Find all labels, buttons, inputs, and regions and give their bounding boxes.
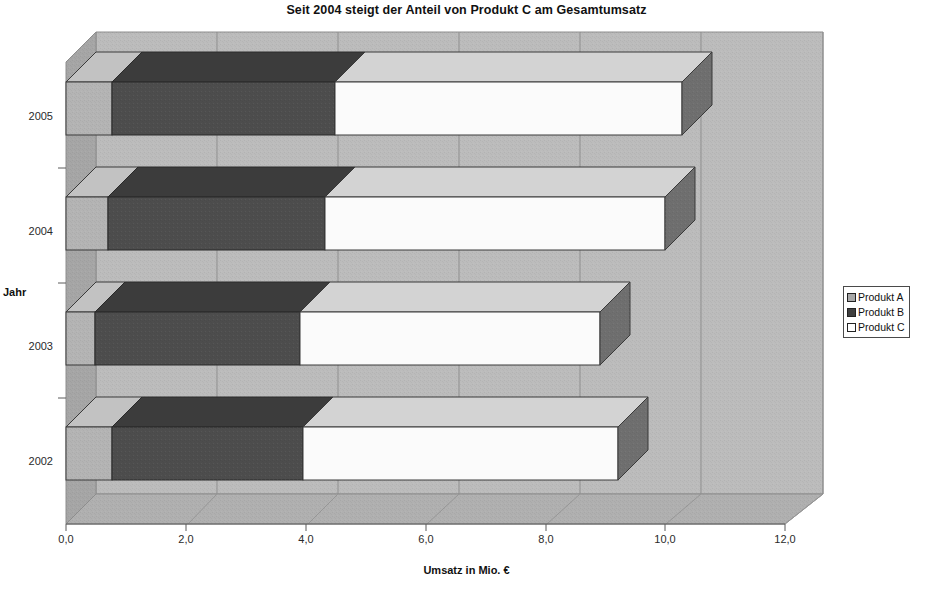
legend-swatch-icon — [847, 293, 856, 302]
x-tick-label: 12,0 — [774, 533, 795, 545]
bar-2004 — [66, 167, 695, 250]
legend-label: Produkt A — [858, 290, 904, 304]
legend-label: Produkt C — [858, 320, 905, 334]
legend-item-produkt-c[interactable]: Produkt C — [847, 320, 905, 334]
x-tick-label: 2,0 — [178, 533, 193, 545]
x-axis — [66, 524, 785, 531]
bar-2005 — [66, 52, 712, 135]
x-tick-label: 8,0 — [538, 533, 553, 545]
legend-item-produkt-b[interactable]: Produkt B — [847, 305, 905, 319]
floor — [66, 494, 823, 524]
legend-label: Produkt B — [858, 305, 904, 319]
y-axis-title: Jahr — [3, 286, 26, 298]
bar-2002 — [66, 397, 648, 480]
legend-swatch-icon — [847, 308, 856, 317]
legend-swatch-icon — [847, 323, 856, 332]
chart-root: Seit 2004 steigt der Anteil von Produkt … — [0, 0, 933, 589]
legend: Produkt A Produkt B Produkt C — [843, 286, 910, 338]
y-tick-label: 2005 — [0, 110, 53, 122]
plot-area-3d — [0, 0, 933, 589]
y-axis — [58, 168, 66, 398]
bar-2003 — [66, 282, 630, 365]
y-tick-label: 2004 — [0, 225, 53, 237]
x-tick-label: 10,0 — [654, 533, 675, 545]
x-tick-label: 4,0 — [298, 533, 313, 545]
plot-svg — [0, 0, 933, 589]
y-tick-label: 2003 — [0, 340, 53, 352]
x-tick-label: 0,0 — [58, 533, 73, 545]
x-tick-label: 6,0 — [418, 533, 433, 545]
y-tick-label: 2002 — [0, 455, 53, 467]
legend-item-produkt-a[interactable]: Produkt A — [847, 290, 905, 304]
x-axis-title: Umsatz in Mio. € — [0, 564, 933, 576]
